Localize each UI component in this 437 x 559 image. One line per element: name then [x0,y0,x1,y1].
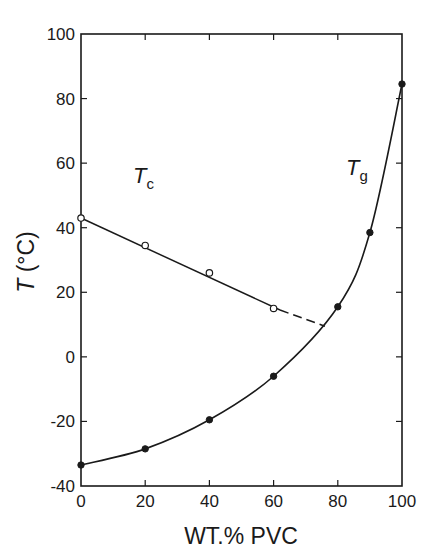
tg-filled-circle-marker [367,229,373,235]
plot-frame [81,34,402,486]
phase-diagram-chart: 020406080100 -40-20020406080100 Tc Tg WT… [0,0,437,559]
plot-border [81,34,402,486]
x-tick-labels: 020406080100 [76,492,416,511]
tg-filled-circle-marker [78,462,84,468]
y-tick-label: 40 [56,219,75,238]
tc-fit-line [81,218,280,310]
tc-open-circle-marker [270,305,276,311]
x-tick-label: 80 [328,492,347,511]
y-tick-label: -40 [50,477,75,496]
tg-curve [81,84,402,465]
tg-filled-circle-marker [270,373,276,379]
y-tick-label: 60 [56,154,75,173]
y-tick-label: -20 [50,412,75,431]
tc-open-circle-marker [78,215,84,221]
x-tick-label: 20 [136,492,155,511]
tg-filled-circle-marker [206,417,212,423]
y-tick-label: 20 [56,283,75,302]
tc-open-circle-marker [142,242,148,248]
x-tick-label: 0 [76,492,85,511]
axis-ticks [81,34,402,486]
tg-filled-circle-marker [142,446,148,452]
y-axis-title: T (°C) [13,231,39,293]
x-tick-label: 60 [264,492,283,511]
tc-dashed-extension [280,310,325,326]
tg-filled-circle-marker [335,304,341,310]
x-tick-label: 100 [388,492,416,511]
y-tick-label: 100 [47,25,75,44]
tg-fit-curve [81,84,402,465]
tc-line [81,218,325,326]
tg-series-label: Tg [346,155,368,184]
y-tick-label: 0 [66,348,75,367]
tg-filled-circle-marker [399,81,405,87]
x-tick-label: 40 [200,492,219,511]
tc-open-circle-marker [206,270,212,276]
x-axis-title: WT.% PVC [184,523,298,549]
y-tick-labels: -40-20020406080100 [47,25,75,496]
y-tick-label: 80 [56,90,75,109]
tc-series-label: Tc [133,163,154,192]
